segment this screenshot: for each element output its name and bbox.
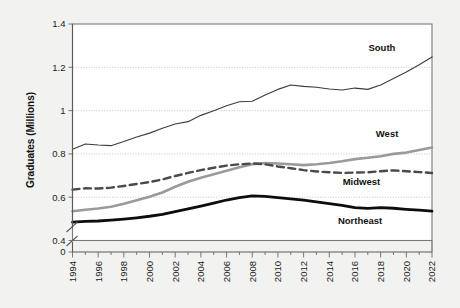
series-label-south: South (368, 42, 395, 53)
y-tick-label: 0.6 (52, 192, 65, 203)
x-tick-label: 2014 (324, 261, 335, 282)
y-tick-label: 0.8 (52, 148, 65, 159)
x-tick-label: 2012 (298, 261, 309, 282)
y-tick-label: 1 (60, 105, 65, 116)
x-tick-label: 2016 (349, 261, 360, 282)
x-ticks-minor (73, 252, 433, 258)
x-tick-label: 2004 (195, 261, 206, 282)
x-tick-labels: 1994199619982000200220042006200820102012… (67, 261, 438, 282)
x-tick-label: 2006 (221, 261, 232, 282)
x-tick-label: 1998 (118, 261, 129, 282)
series-label-northeast: Northeast (338, 215, 383, 226)
chart-canvas: SouthWestMidwestNortheast00.40.60.811.21… (0, 0, 460, 308)
x-tick-label: 2018 (375, 261, 386, 282)
y-tick-label: 1.4 (52, 18, 65, 29)
series-label-midwest: Midwest (343, 176, 381, 187)
x-tick-label: 2010 (272, 261, 283, 282)
y-ticks: 00.40.60.811.21.4 (52, 18, 72, 257)
y-tick-label: 1.2 (52, 62, 65, 73)
x-tick-label: 2022 (426, 261, 437, 282)
line-chart: SouthWestMidwestNortheast00.40.60.811.21… (0, 0, 460, 308)
x-tick-label: 1996 (93, 261, 104, 282)
x-tick-label: 2000 (144, 261, 155, 282)
series-label-west: West (376, 128, 399, 139)
x-tick-label: 2020 (401, 261, 412, 282)
y-axis-title: Graduates (Millions) (25, 92, 36, 188)
y-tick-label: 0 (60, 246, 65, 257)
x-tick-label: 2008 (247, 261, 258, 282)
y-tick-label: 0.4 (52, 235, 65, 246)
x-tick-label: 2002 (170, 261, 181, 282)
x-tick-label: 1994 (67, 261, 78, 282)
